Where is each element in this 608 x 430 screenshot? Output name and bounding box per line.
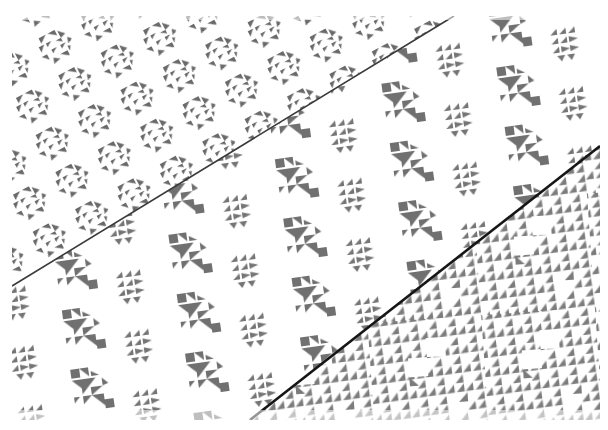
top-edge-fade bbox=[0, 0, 608, 20]
patterned-paper-photo bbox=[0, 0, 608, 430]
bottom-edge-fade bbox=[0, 410, 608, 430]
